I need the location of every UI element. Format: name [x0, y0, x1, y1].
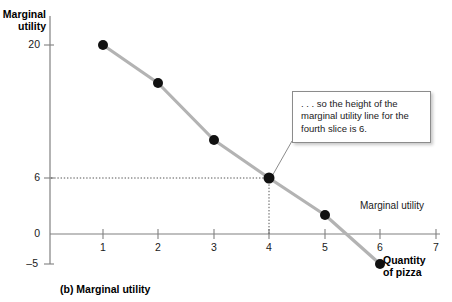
y-tick-label-0: 0 — [16, 227, 40, 239]
x-tick-label-3: 3 — [203, 241, 225, 253]
x-tick-label-2: 2 — [147, 241, 169, 253]
annotation-callout: . . . so the height of the marginal util… — [292, 91, 431, 143]
y-tick-label-20: 20 — [16, 38, 40, 50]
marginal-utility-chart: Marginal utility 20 6 0 –5 1 2 3 4 5 6 7… — [0, 0, 452, 302]
data-point — [320, 210, 330, 220]
series-label-marginal-utility: Marginal utility — [360, 200, 424, 211]
x-tick-label-5: 5 — [314, 241, 336, 253]
data-point — [153, 78, 163, 88]
data-point — [264, 173, 275, 184]
x-tick-label-4: 4 — [258, 241, 280, 253]
x-tick-label-6: 6 — [369, 241, 391, 253]
x-tick-label-1: 1 — [92, 241, 114, 253]
y-tick-label-neg5: –5 — [14, 257, 38, 269]
data-point — [209, 135, 219, 145]
x-axis-title: Quantity of pizza — [383, 254, 449, 278]
figure-caption: (b) Marginal utility — [60, 283, 150, 295]
x-tick-label-7: 7 — [425, 241, 447, 253]
marginal-utility-line — [103, 45, 380, 264]
y-axis-title: Marginal utility — [2, 8, 46, 32]
callout-leader-line — [271, 141, 292, 178]
y-tick-label-6: 6 — [16, 171, 40, 183]
data-point — [98, 40, 108, 50]
